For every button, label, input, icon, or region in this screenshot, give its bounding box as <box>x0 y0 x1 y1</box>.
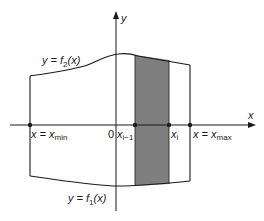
region-diagram: y x 0 y = f2(x) y = f1(x) x = xmin xi−1 … <box>0 0 264 221</box>
x-max-label: x = xmax <box>192 128 232 142</box>
lower-curve-label: y = f1(x) <box>67 192 107 207</box>
x-axis-arrow-icon <box>248 122 256 128</box>
origin-label: 0 <box>108 128 114 140</box>
upper-curve-label: y = f2(x) <box>41 54 81 69</box>
y-axis-arrow-icon <box>113 11 119 19</box>
x-i-minus-1-label: xi−1 <box>116 128 134 142</box>
point-x-min <box>28 123 32 127</box>
x-axis-label: x <box>247 109 254 121</box>
x-min-label: x = xmin <box>30 128 67 142</box>
y-axis-label: y <box>120 12 128 24</box>
shaded-strip <box>135 55 169 186</box>
point-x-i <box>167 123 171 127</box>
x-i-label: xi <box>170 128 179 142</box>
point-x-i-minus-1 <box>133 123 137 127</box>
point-x-max <box>188 123 192 127</box>
